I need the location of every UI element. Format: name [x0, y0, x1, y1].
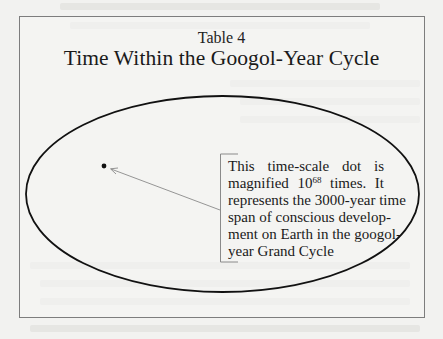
callout-line-part: times. It: [321, 175, 384, 191]
callout-line: This time-scale dot is: [228, 158, 384, 175]
callout-line: magnified 1068 times. It: [228, 175, 384, 192]
callout-line-part: magnified 10: [228, 175, 312, 191]
callout-text: This time-scale dot is magnified 1068 ti…: [228, 158, 384, 260]
callout-line: represents the 3000-year time: [228, 192, 384, 209]
callout-line: span of conscious develop-: [228, 209, 384, 226]
callout-line: year Grand Cycle: [228, 243, 384, 260]
callout-line: ment on Earth in the googol-: [228, 226, 384, 243]
time-scale-dot: [102, 164, 107, 169]
callout-arrow: [111, 168, 221, 210]
